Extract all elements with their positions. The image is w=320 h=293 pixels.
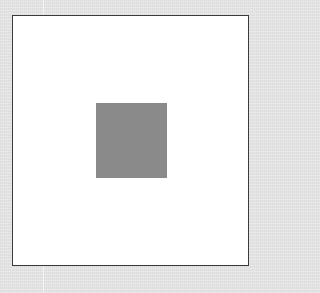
gray-square — [96, 103, 167, 178]
white-frame — [12, 15, 249, 266]
